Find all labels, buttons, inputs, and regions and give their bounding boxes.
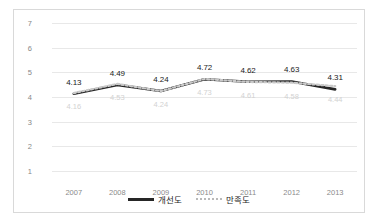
legend-item-1[interactable]: 만족도 [196, 193, 250, 205]
y-tick-label-4: 4 [16, 93, 32, 102]
data-label-개선도-2013: 4.31 [328, 73, 343, 82]
data-label-만족도-2013: 4.44 [328, 95, 343, 104]
series-lines [52, 23, 357, 171]
legend-item-0[interactable]: 개선도 [128, 193, 182, 205]
y-tick-label-1: 1 [16, 167, 32, 176]
chart-container: 1234567 2007200820092010201120122013 4.1… [13, 9, 365, 213]
data-label-만족도-2008: 4.53 [110, 93, 125, 102]
data-label-개선도-2011: 4.62 [240, 66, 255, 75]
y-tick-label-6: 6 [16, 43, 32, 52]
data-label-개선도-2007: 4.13 [66, 78, 81, 87]
data-label-개선도-2009: 4.24 [153, 75, 168, 84]
legend-label-1: 만족도 [226, 193, 250, 205]
data-label-개선도-2010: 4.72 [197, 63, 212, 72]
legend-dotted-line-icon [196, 198, 222, 200]
y-tick-label-5: 5 [16, 68, 32, 77]
y-tick-label-7: 7 [16, 19, 32, 28]
data-label-만족도-2009: 4.24 [154, 100, 169, 109]
data-label-만족도-2010: 4.73 [197, 88, 212, 97]
y-tick-label-3: 3 [16, 117, 32, 126]
data-label-만족도-2011: 4.61 [241, 91, 256, 100]
data-label-만족도-2012: 4.58 [284, 92, 299, 101]
data-label-개선도-2008: 4.49 [110, 69, 125, 78]
y-tick-label-2: 2 [16, 142, 32, 151]
gridline-1 [52, 171, 357, 172]
chart-legend: 개선도 만족도 [14, 193, 364, 205]
legend-solid-line-icon [128, 198, 154, 201]
legend-label-0: 개선도 [158, 193, 182, 205]
data-label-개선도-2012: 4.63 [284, 65, 299, 74]
plot-area: 1234567 2007200820092010201120122013 4.1… [52, 23, 357, 171]
data-label-만족도-2007: 4.16 [66, 102, 81, 111]
